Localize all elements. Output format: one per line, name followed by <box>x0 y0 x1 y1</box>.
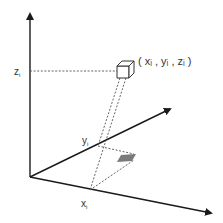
cube-icon <box>117 61 134 78</box>
projection-lines <box>30 71 134 190</box>
point-coordinate-label: ( xᵢ , yᵢ , zᵢ ) <box>138 56 191 66</box>
z-i-label: zi <box>14 67 20 80</box>
coordinate-diagram <box>0 0 223 223</box>
diagram-canvas: zi yi xi ( xᵢ , yᵢ , zᵢ ) <box>0 0 223 223</box>
y-axis <box>30 109 170 177</box>
y-i-label: yi <box>82 136 88 149</box>
x-axis <box>30 177 211 213</box>
x-i-label: xi <box>81 199 87 212</box>
